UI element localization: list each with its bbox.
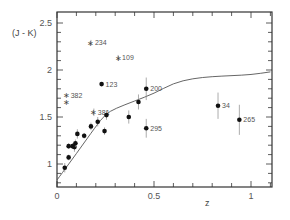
dot-icon (99, 82, 104, 87)
dot-icon (144, 126, 149, 131)
dot-marker: 123 (99, 81, 117, 88)
x-tick-label: 1 (248, 191, 253, 201)
star-icon: ∗ (115, 54, 122, 63)
dot-icon (136, 100, 141, 105)
dot-icon (144, 87, 149, 92)
dot-icon (95, 119, 100, 124)
dot-marker: 34 (216, 93, 230, 119)
y-tick-label: 2.5 (39, 18, 52, 28)
dot-marker (102, 127, 107, 135)
point-label: 200 (150, 85, 162, 92)
dot-icon (73, 141, 78, 146)
star-icon: ∗ (63, 98, 70, 107)
dot-icon (126, 115, 131, 120)
star-marker: ∗109 (115, 54, 134, 63)
dot-icon (66, 155, 71, 160)
point-label: 265 (243, 116, 255, 123)
star-marker: ∗234 (87, 39, 106, 48)
data-points: 12320029534265∗234∗109∗382∗∗381 (62, 39, 255, 173)
axis-ticks: 00.5111.522.5 (39, 12, 272, 201)
point-label: 234 (95, 39, 107, 46)
scatter-chart: 00.5111.522.5 12320029534265∗234∗109∗382… (0, 0, 290, 220)
dot-icon (216, 103, 221, 108)
dot-icon (89, 124, 94, 129)
point-label: 295 (150, 125, 162, 132)
star-marker: ∗ (63, 98, 70, 107)
y-axis-title: (J - K) (12, 28, 37, 38)
star-icon: ∗ (87, 39, 94, 48)
point-label: 34 (222, 102, 230, 109)
dot-marker (136, 94, 141, 109)
dot-marker (82, 133, 87, 139)
x-tick-label: 0.5 (148, 191, 161, 201)
y-tick-label: 1 (47, 159, 52, 169)
y-tick-label: 2 (47, 65, 52, 75)
dot-marker (75, 129, 80, 138)
point-label: 109 (122, 54, 134, 61)
x-tick-label: 0 (54, 191, 59, 201)
y-tick-label: 1.5 (39, 112, 52, 122)
point-label: 123 (106, 81, 118, 88)
dot-marker: 265 (237, 105, 255, 135)
dot-icon (62, 165, 67, 170)
point-label: 382 (71, 92, 83, 99)
dot-icon (102, 129, 107, 134)
dot-icon (82, 134, 87, 139)
dot-marker (89, 123, 94, 131)
x-axis-title: z (205, 198, 210, 208)
star-icon: ∗ (90, 108, 97, 117)
dot-icon (104, 113, 109, 118)
dot-icon (75, 132, 80, 137)
dot-marker (95, 117, 100, 126)
dot-marker: 295 (144, 119, 162, 138)
dot-marker (126, 110, 131, 123)
dot-icon (237, 118, 242, 123)
dot-marker (66, 155, 71, 161)
